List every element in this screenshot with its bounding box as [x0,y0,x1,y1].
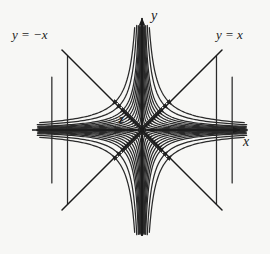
phase-portrait-figure: y x y = −x y = x z [0,0,270,254]
asymptote-label-y-equals-minus-x: y = −x [12,27,48,43]
asymptote-label-y-equals-x: y = x [216,27,243,43]
stagnation-point-label: z [119,112,124,127]
x-axis-label: x [243,134,249,150]
y-axis-label: y [151,8,157,24]
stagnation-point-marker [140,128,144,132]
